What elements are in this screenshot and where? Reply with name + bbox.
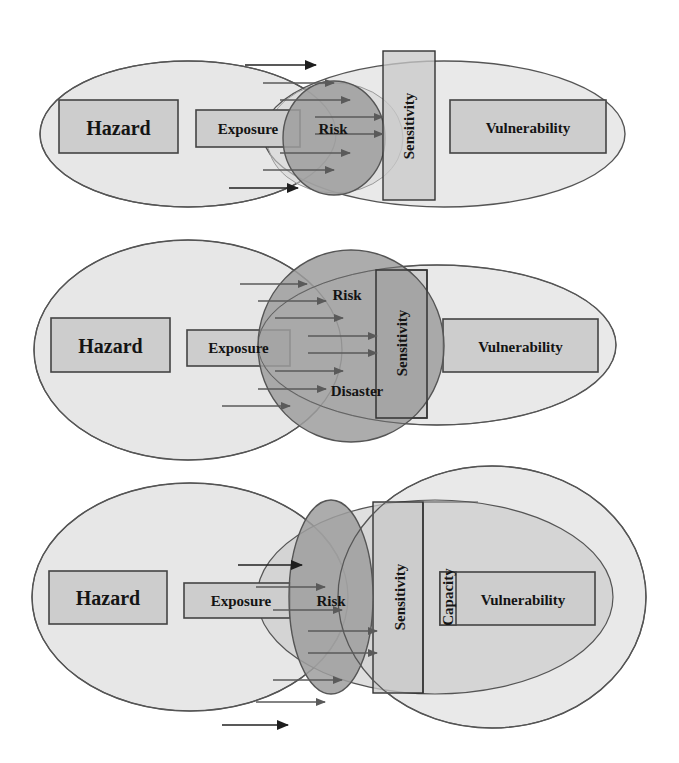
disaster-label: Disaster bbox=[331, 383, 384, 399]
risk-circle bbox=[283, 81, 385, 195]
hazard-label: Hazard bbox=[78, 335, 142, 357]
risk-label: Risk bbox=[316, 593, 346, 609]
hazard-label: Hazard bbox=[76, 587, 140, 609]
panel-3: Hazard Exposure Risk Sensitivity Capacit… bbox=[32, 466, 646, 728]
capacity-label: Capacity bbox=[440, 568, 456, 626]
sensitivity-label: Sensitivity bbox=[401, 92, 417, 159]
risk-disaster-circle bbox=[258, 250, 444, 442]
panel-1: Hazard Exposure Risk Sensitivity Vulnera… bbox=[40, 51, 625, 207]
vulnerability-label: Vulnerability bbox=[486, 120, 571, 136]
risk-label: Risk bbox=[332, 287, 362, 303]
risk-label: Risk bbox=[318, 121, 348, 137]
exposure-label: Exposure bbox=[218, 121, 279, 137]
sensitivity-label: Sensitivity bbox=[392, 563, 408, 630]
vulnerability-label: Vulnerability bbox=[478, 339, 563, 355]
exposure-label: Exposure bbox=[211, 593, 272, 609]
panel-2: Hazard Exposure Risk Disaster Sensitivit… bbox=[34, 240, 616, 460]
exposure-label: Exposure bbox=[208, 340, 269, 356]
vulnerability-label: Vulnerability bbox=[481, 592, 566, 608]
risk-vulnerability-diagram: Hazard Exposure Risk Sensitivity Vulnera… bbox=[0, 0, 679, 763]
sensitivity-label: Sensitivity bbox=[394, 309, 410, 376]
hazard-label: Hazard bbox=[86, 117, 150, 139]
